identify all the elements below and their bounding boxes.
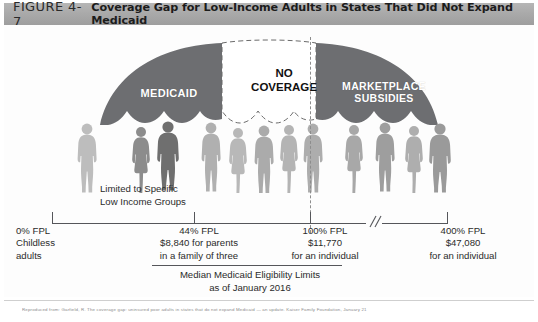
dome-segment-medicaid [100, 43, 222, 125]
axis-label-fpl-100-percent: 100% FPL [266, 225, 384, 237]
figure-canvas: MEDICAID NO COVERAGE MARKETPLACE SUBSIDI… [4, 25, 534, 297]
median-eligibility-rule [152, 265, 342, 266]
person-silhouette [304, 124, 323, 193]
axis-label-fpl-100-line3: for an individual [266, 250, 384, 262]
person-silhouette [78, 124, 97, 193]
people-group-marketplace [345, 123, 451, 193]
person-silhouette [157, 121, 179, 190]
axis-label-fpl-0-percent: 0% FPL [16, 225, 94, 237]
median-eligibility-note: Median Medicaid Eligibility Limits as of… [100, 269, 400, 294]
limited-groups-note-line1: Limited to Specific [100, 183, 250, 196]
axis-label-fpl-400: 400% FPL $47,080 for an individual [400, 225, 526, 262]
dome-label-marketplace-line1: MARKETPLACE [322, 81, 446, 93]
figure-header-bar: FIGURE 4-7 Coverage Gap for Low-Income A… [4, 3, 534, 25]
person-silhouette [405, 126, 423, 193]
person-silhouette [345, 125, 363, 193]
axis-label-fpl-400-line3: for an individual [400, 250, 526, 262]
person-silhouette [376, 123, 395, 192]
median-eligibility-note-line2: as of January 2016 [100, 282, 400, 295]
person-silhouette [255, 126, 274, 193]
dome-label-no-coverage-line1: NO [230, 67, 338, 81]
axis-label-fpl-100: 100% FPL $11,770 for an individual [266, 225, 384, 262]
person-silhouette [280, 125, 298, 193]
axis-label-fpl-0-line3: adults [16, 250, 94, 262]
source-caption: Reproduced from: Garfield, R. The covera… [22, 307, 522, 313]
caption-divider [4, 300, 534, 301]
axis-label-fpl-400-percent: 400% FPL [400, 225, 526, 237]
axis-label-fpl-0: 0% FPL Childless adults [16, 225, 94, 262]
axis-label-fpl-0-line2: Childless [16, 237, 94, 249]
axis-label-fpl-100-line2: $11,770 [266, 237, 384, 249]
median-eligibility-note-line1: Median Medicaid Eligibility Limits [100, 269, 400, 282]
figure-title: Coverage Gap for Low-Income Adults in St… [91, 1, 534, 27]
dome-label-marketplace: MARKETPLACE SUBSIDIES [322, 81, 446, 105]
axis-label-fpl-44-percent: 44% FPL [124, 225, 274, 237]
dome-label-marketplace-line2: SUBSIDIES [322, 93, 446, 105]
people-silhouette-row [4, 121, 534, 193]
figure-root: FIGURE 4-7 Coverage Gap for Low-Income A… [0, 0, 538, 322]
person-silhouette [429, 123, 451, 192]
axis-label-fpl-44-line3: in a family of three [124, 250, 274, 262]
fpl-100-divider-line [310, 37, 311, 233]
axis-label-fpl-44: 44% FPL $8,840 for parents in a family o… [124, 225, 274, 262]
dome-label-medicaid: MEDICAID [114, 87, 224, 99]
axis-label-fpl-44-line2: $8,840 for parents [124, 237, 274, 249]
axis-label-fpl-400-line2: $47,080 [400, 237, 526, 249]
person-silhouette [202, 123, 221, 192]
